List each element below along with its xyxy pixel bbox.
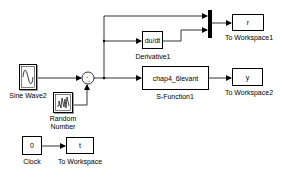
s-function-block[interactable]: chap4_6levant	[142, 66, 209, 90]
clock-label: Clock	[17, 158, 47, 166]
to-workspace2-var: y	[246, 74, 250, 81]
to-workspace1-label: To Workspace1	[222, 34, 276, 42]
to-workspace-block[interactable]: t	[66, 137, 94, 154]
random-signal-icon	[55, 94, 71, 111]
derivative-text: du/dt	[145, 37, 161, 44]
to-workspace-label: To Workspace	[55, 158, 105, 166]
s-function-name: chap4_6levant	[153, 75, 199, 82]
random-number-block[interactable]	[53, 92, 73, 113]
clock-block[interactable]: 0	[22, 136, 42, 155]
sine-wave-block[interactable]	[19, 64, 37, 90]
wire-derivative-to-mux[interactable]	[163, 30, 207, 41]
mux-block[interactable]	[208, 10, 212, 38]
to-workspace1-var: r	[247, 19, 249, 26]
sum-block[interactable]: + +	[82, 72, 94, 84]
sine-wave-label: Sine Wave2	[6, 92, 50, 100]
wire-random-to-sum[interactable]	[73, 85, 87, 105]
derivative-block[interactable]: du/dt	[142, 31, 163, 49]
to-workspace-var: t	[79, 142, 81, 149]
to-workspace1-block[interactable]: r	[232, 14, 264, 31]
random-number-label-line1: Random	[43, 115, 83, 123]
sine-wave-icon	[21, 66, 35, 88]
derivative-label: Derivative1	[130, 53, 176, 61]
s-function-label: S-Function1	[150, 93, 200, 101]
clock-value: 0	[30, 142, 34, 149]
branch-point	[103, 77, 105, 79]
to-workspace2-label: To Workspace2	[222, 89, 276, 97]
to-workspace2-block[interactable]: y	[232, 68, 263, 86]
simulink-canvas: + + Sine Wave2 Random Number du/dt Deriv…	[0, 0, 282, 177]
random-number-label-line2: Number	[43, 123, 83, 131]
branch-point	[103, 40, 105, 42]
